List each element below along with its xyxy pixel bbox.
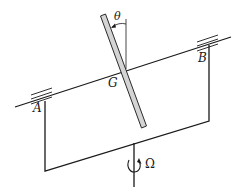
theta-arrowhead-icon [111,24,116,29]
label-g: G [108,77,118,89]
frame [45,45,209,171]
bearing-b-mark [197,35,218,42]
bearing-a-mark [31,88,52,95]
label-omega: Ω [145,158,155,170]
label-a: A [33,102,42,114]
label-b: B [198,52,207,64]
rod [101,14,147,128]
label-theta: θ [114,11,121,22]
rotation-arrowhead-icon [137,158,142,164]
diagram-canvas: θ G A B Ω [0,0,246,196]
diagram-svg [0,0,246,196]
